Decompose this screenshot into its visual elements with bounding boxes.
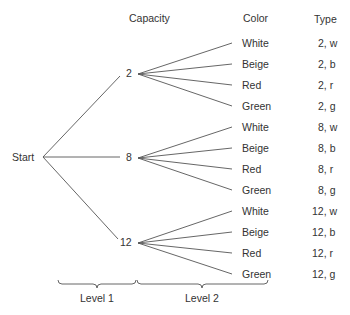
leaf-color: Beige: [242, 58, 269, 70]
leaf-type: 2, r: [318, 79, 333, 91]
leaf-color: Green: [242, 184, 271, 196]
leaf-type: 12, w: [312, 205, 337, 217]
leaf-type: 12, b: [312, 226, 335, 238]
leaf-type: 2, g: [318, 100, 336, 112]
leaf-color: Red: [242, 247, 261, 259]
leaf-type: 8, r: [318, 163, 333, 175]
leaf-type: 2, w: [318, 37, 337, 49]
tree-edges: [0, 0, 350, 315]
leaf-type: 12, r: [312, 247, 333, 259]
leaf-color: White: [242, 37, 269, 49]
edge-8-red: [138, 158, 232, 169]
level1-node-2: 2: [126, 67, 132, 79]
edge-12-beige: [138, 232, 232, 243]
level1-node-8: 8: [126, 151, 132, 163]
tree-diagram: Capacity Color Type Start 2 8 12 White B…: [0, 0, 350, 315]
header-capacity: Capacity: [129, 12, 170, 24]
leaf-type: 8, b: [318, 142, 336, 154]
edge-8-green: [138, 158, 232, 190]
edge-2-green: [138, 74, 232, 106]
leaf-color: Red: [242, 163, 261, 175]
header-type: Type: [314, 13, 337, 25]
leaf-color: Beige: [242, 142, 269, 154]
edge-start-12: [43, 157, 118, 239]
edge-12-white: [138, 211, 232, 243]
level1-brace: [58, 280, 136, 288]
level2-brace: [137, 280, 268, 288]
root-node-start: Start: [12, 151, 34, 163]
level1-node-12: 12: [120, 236, 132, 248]
leaf-color: Green: [242, 100, 271, 112]
level1-label: Level 1: [80, 292, 114, 304]
edge-2-red: [138, 74, 232, 85]
leaf-type: 2, b: [318, 58, 336, 70]
header-color: Color: [243, 12, 268, 24]
leaf-color: Green: [242, 268, 271, 280]
leaf-type: 12, g: [312, 268, 335, 280]
leaf-color: White: [242, 121, 269, 133]
leaf-color: Beige: [242, 226, 269, 238]
edge-start-2: [43, 76, 120, 157]
leaf-type: 8, w: [318, 121, 337, 133]
leaf-type: 8, g: [318, 184, 336, 196]
level2-label: Level 2: [185, 292, 219, 304]
leaf-color: Red: [242, 79, 261, 91]
leaf-color: White: [242, 205, 269, 217]
